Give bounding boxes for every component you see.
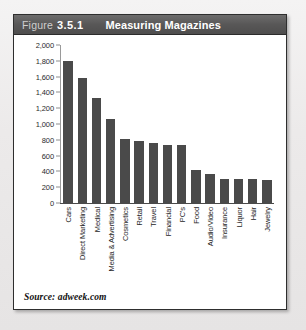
x-label-cell: Medical: [89, 205, 103, 291]
x-axis-tick-label: Jewelry: [262, 207, 271, 232]
bar: [149, 143, 158, 203]
y-axis-tick-label: 0: [50, 199, 54, 208]
x-axis-tick-label: Financial: [163, 207, 172, 236]
figure-title: Measuring Magazines: [105, 19, 221, 31]
x-label-cell: Direct Marketing: [75, 205, 89, 291]
y-axis-tick-label: 1,600: [36, 72, 54, 81]
bar: [63, 61, 72, 203]
bar: [234, 179, 243, 203]
y-axis-tick-label: 200: [42, 183, 54, 192]
x-axis-tick-label: Hair: [248, 207, 257, 220]
bar: [134, 141, 143, 203]
y-axis-tick-label: 600: [42, 151, 54, 160]
bar-cell: [217, 45, 231, 203]
x-label-cell: Media & Advertising: [104, 205, 118, 291]
x-axis-labels: CarsDirect MarketingMedicalMedia & Adver…: [61, 205, 274, 291]
y-axis-tick-label: 1,200: [36, 104, 54, 113]
bar-cell: [75, 45, 89, 203]
bar-cell: [118, 45, 132, 203]
x-label-cell: PC's: [175, 205, 189, 291]
x-axis-tick-label: Audio/Video: [206, 207, 215, 246]
bar: [78, 78, 87, 203]
figure-body: 02004006008001,0001,2001,4001,6001,8002,…: [14, 35, 286, 309]
page-background: Figure 3.5.1 Measuring Magazines 0200400…: [0, 0, 306, 330]
figure-number: 3.5.1: [57, 19, 83, 31]
bar: [262, 180, 271, 203]
bar: [220, 179, 229, 203]
bar-cell: [146, 45, 160, 203]
bar-cell: [89, 45, 103, 203]
bar: [177, 145, 186, 203]
plot-area: 02004006008001,0001,2001,4001,6001,8002,…: [24, 45, 276, 293]
y-axis: 02004006008001,0001,2001,4001,6001,8002,…: [24, 45, 60, 203]
bar: [106, 119, 115, 203]
x-axis-line: [60, 203, 274, 204]
bar-cell: [61, 45, 75, 203]
bar: [120, 139, 129, 203]
y-axis-tick-label: 1,800: [36, 56, 54, 65]
x-label-cell: Liquor: [231, 205, 245, 291]
x-axis-tick-label: Direct Marketing: [78, 207, 87, 260]
x-axis-tick-label: Food: [191, 207, 200, 224]
x-label-cell: Cosmetics: [118, 205, 132, 291]
figure-box: Figure 3.5.1 Measuring Magazines 0200400…: [13, 14, 287, 310]
bar-cell: [203, 45, 217, 203]
bar-cell: [175, 45, 189, 203]
y-axis-tick-label: 2,000: [36, 41, 54, 50]
figure-label: Figure: [22, 19, 53, 31]
y-axis-tick-label: 1,000: [36, 120, 54, 129]
bar: [205, 174, 214, 203]
bar-cell: [246, 45, 260, 203]
y-axis-tick-label: 800: [42, 135, 54, 144]
x-axis-tick-label: Cosmetics: [120, 207, 129, 241]
bar-cell: [260, 45, 274, 203]
x-label-cell: Jewelry: [260, 205, 274, 291]
x-label-cell: Cars: [61, 205, 75, 291]
bar-series: [61, 45, 274, 203]
figure-header: Figure 3.5.1 Measuring Magazines: [14, 15, 286, 35]
x-axis-tick-label: Liquor: [234, 207, 243, 227]
bar: [163, 145, 172, 203]
x-axis-tick-label: Insurance: [220, 207, 229, 239]
x-label-cell: Food: [189, 205, 203, 291]
x-axis-tick-label: PC's: [177, 207, 186, 222]
bar-cell: [132, 45, 146, 203]
bar: [92, 98, 101, 203]
source-note: Source: adweek.com: [24, 292, 107, 302]
bar-cell: [104, 45, 118, 203]
bar-chart: 02004006008001,0001,2001,4001,6001,8002,…: [14, 41, 286, 303]
bar-cell: [189, 45, 203, 203]
x-label-cell: Retail: [132, 205, 146, 291]
bar: [191, 170, 200, 203]
x-axis-tick-label: Media & Advertising: [106, 207, 115, 271]
x-axis-tick-label: Medical: [92, 207, 101, 232]
bar: [248, 179, 257, 203]
y-axis-tick-label: 400: [42, 167, 54, 176]
x-label-cell: Insurance: [217, 205, 231, 291]
x-label-cell: Audio/Video: [203, 205, 217, 291]
x-axis-tick-label: Travel: [149, 207, 158, 227]
y-axis-tick-label: 1,400: [36, 88, 54, 97]
x-label-cell: Travel: [146, 205, 160, 291]
x-label-cell: Financial: [160, 205, 174, 291]
x-label-cell: Hair: [246, 205, 260, 291]
x-axis-tick-label: Retail: [135, 207, 144, 226]
x-axis-tick-label: Cars: [64, 207, 73, 222]
bar-cell: [231, 45, 245, 203]
bar-cell: [160, 45, 174, 203]
